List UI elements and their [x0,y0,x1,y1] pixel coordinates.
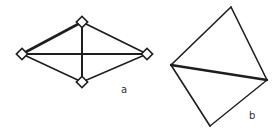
edge-b-left-right [171,65,267,80]
figure-b-label: b [249,110,255,121]
vertex-a-right [141,48,152,59]
edge-a-bottom-left [22,54,82,82]
vertex-a-bottom [76,76,87,87]
figure-a-label: a [121,84,127,95]
edge-a-top-right [82,22,147,54]
edge-b-right-bottom [210,80,267,126]
figure-b: b [171,7,267,126]
edge-b-bottom-left [171,65,210,126]
figure-a: a [16,16,152,95]
edge-b-top-right [231,7,267,80]
diagram-canvas: a b [0,0,280,135]
edge-a-left-top [22,22,82,54]
vertex-a-top [76,16,87,27]
edge-b-left-top [171,7,231,65]
edge-a-right-bottom [82,54,147,82]
vertex-a-left [16,48,27,59]
